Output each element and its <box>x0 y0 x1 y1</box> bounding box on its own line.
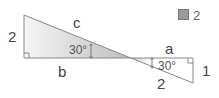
right-angle-marker-right <box>188 58 193 63</box>
right-base-label: a <box>165 41 173 56</box>
left-height-label: 2 <box>8 29 16 44</box>
right-hypotenuse-label: 2 <box>157 76 165 91</box>
left-base-label: b <box>58 64 66 79</box>
right-angle-label: 30° <box>158 60 176 72</box>
left-hypotenuse-label: c <box>73 15 81 30</box>
left-angle-label: 30° <box>69 44 87 56</box>
calculator-icon <box>178 9 189 20</box>
right-height-label: 1 <box>202 63 210 78</box>
badge-number: 2 <box>193 8 200 23</box>
